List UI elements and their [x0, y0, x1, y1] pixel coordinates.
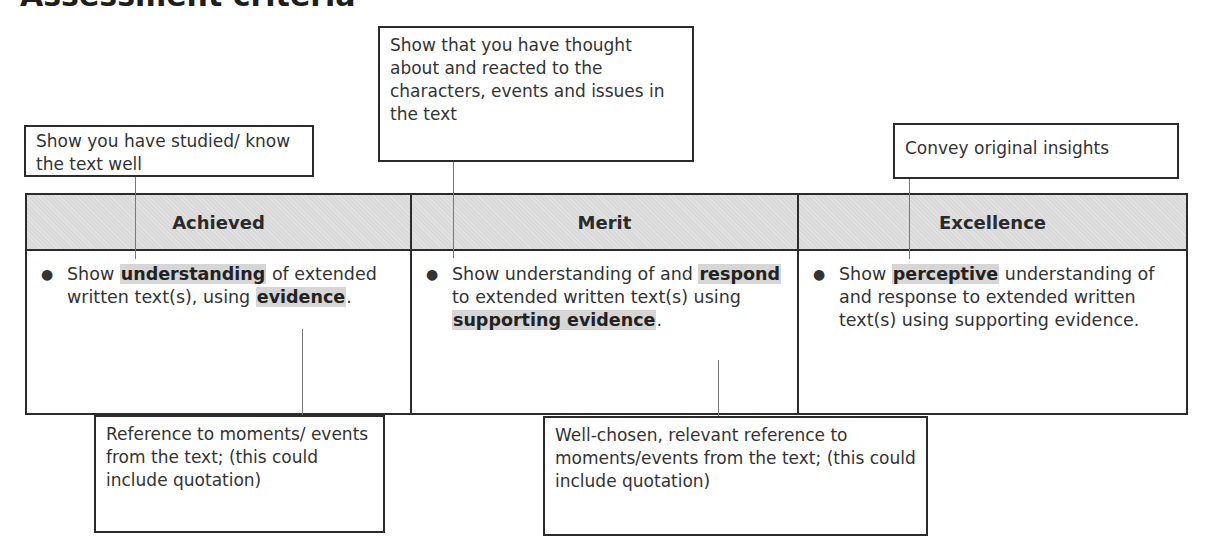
bullet-icon: ●	[813, 263, 839, 332]
cell-text-run: Show	[839, 264, 892, 284]
connector-reference	[302, 329, 303, 415]
header-excellence: Excellence	[798, 194, 1187, 250]
highlighted-keyword: understanding	[120, 264, 267, 284]
connector-wellchosen	[718, 360, 719, 416]
header-achieved: Achieved	[26, 194, 411, 250]
header-row: Achieved Merit Excellence	[26, 194, 1187, 250]
highlighted-keyword: evidence	[256, 287, 346, 307]
connector-insights	[909, 179, 910, 259]
page-title: Assessment criteria	[20, 0, 356, 13]
callout-wellchosen: Well-chosen, relevant reference to momen…	[543, 416, 928, 536]
cell-text-run: Show understanding of and	[452, 264, 698, 284]
bullet-icon: ●	[426, 263, 452, 332]
cell-merit-text: Show understanding of and respond to ext…	[452, 263, 787, 332]
callout-insights-text: Convey original insights	[905, 138, 1109, 158]
highlighted-keyword: perceptive	[892, 264, 999, 284]
cell-text-run: .	[346, 287, 352, 307]
cell-text-run: .	[656, 310, 662, 330]
connector-thought	[453, 162, 454, 258]
bullet-icon: ●	[41, 263, 67, 309]
cell-achieved-text: Show understanding of extended written t…	[67, 263, 400, 309]
cell-excellence-text: Show perceptive understanding of and res…	[839, 263, 1176, 332]
highlighted-keyword: supporting evidence	[452, 310, 656, 330]
cell-merit: ● Show understanding of and respond to e…	[411, 250, 798, 414]
callout-thought-text: Show that you have thought about and rea…	[390, 35, 665, 124]
callout-insights: Convey original insights	[893, 123, 1179, 179]
cell-achieved: ● Show understanding of extended written…	[26, 250, 411, 414]
cell-text-run: to extended written text(s) using	[452, 287, 741, 307]
criteria-row: ● Show understanding of extended written…	[26, 250, 1187, 414]
cell-text-run: Show	[67, 264, 120, 284]
header-merit: Merit	[411, 194, 798, 250]
callout-wellchosen-text: Well-chosen, relevant reference to momen…	[555, 425, 916, 491]
callout-studied: Show you have studied/ know the text wel…	[24, 125, 314, 177]
callout-thought: Show that you have thought about and rea…	[378, 26, 694, 162]
assessment-table: Achieved Merit Excellence ● Show underst…	[25, 193, 1188, 415]
callout-reference-text: Reference to moments/ events from the te…	[106, 424, 368, 490]
callout-studied-text: Show you have studied/ know the text wel…	[36, 131, 290, 174]
cell-excellence: ● Show perceptive understanding of and r…	[798, 250, 1187, 414]
callout-reference: Reference to moments/ events from the te…	[94, 415, 385, 533]
highlighted-keyword: respond	[698, 264, 780, 284]
connector-studied	[135, 177, 136, 259]
